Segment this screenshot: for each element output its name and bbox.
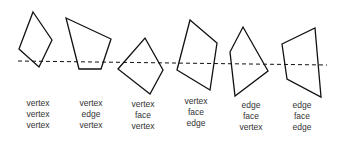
shape-3-label-line-2: face	[113, 110, 173, 121]
shape-6-label-line-2: face	[272, 111, 332, 122]
shape-2-label-line-1: vertex	[61, 98, 121, 109]
shape-4-label: vertex face edge	[166, 96, 226, 129]
quadrilateral-4	[177, 20, 217, 90]
shape-2-label: vertex edge vertex	[61, 98, 121, 131]
shape-2-label-line-2: edge	[61, 109, 121, 120]
shape-1-label-line-3: vertex	[8, 120, 68, 131]
shape-4-label-line-2: face	[166, 107, 226, 118]
shape-6-label: edge face edge	[272, 100, 332, 133]
shape-1-label-line-2: vertex	[8, 109, 68, 120]
shape-4-label-line-1: vertex	[166, 96, 226, 107]
dashed-reference-line	[18, 61, 327, 65]
shape-1-label: vertex vertex vertex	[8, 98, 68, 131]
shape-3-label-line-1: vertex	[113, 99, 173, 110]
quadrilateral-5	[230, 27, 268, 96]
quadrilateral-6	[282, 28, 321, 97]
shape-4-label-line-3: edge	[166, 118, 226, 129]
quadrilateral-2	[66, 18, 111, 69]
quadrilateral-3	[118, 38, 163, 94]
shape-3-label-line-3: vertex	[113, 121, 173, 132]
shape-6-label-line-3: edge	[272, 122, 332, 133]
shape-3-label: vertex face vertex	[113, 99, 173, 132]
shape-1-label-line-1: vertex	[8, 98, 68, 109]
shape-2-label-line-3: vertex	[61, 120, 121, 131]
quadrilateral-1	[19, 12, 52, 67]
shape-6-label-line-1: edge	[272, 100, 332, 111]
